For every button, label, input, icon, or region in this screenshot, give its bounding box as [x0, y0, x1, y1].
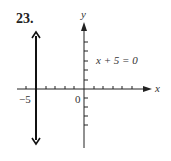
graph: y x x + 5 = 0 −5 0 [0, 0, 171, 161]
x-arrow-icon [143, 86, 152, 92]
x-label: x [154, 82, 160, 94]
vertical-line-x-eq-neg5 [32, 32, 40, 144]
y-arrow-icon [81, 22, 87, 31]
tick-label-neg5: −5 [19, 93, 31, 105]
origin-label: 0 [75, 93, 81, 105]
equation-label: x + 5 = 0 [95, 54, 138, 66]
y-label: y [80, 8, 86, 20]
